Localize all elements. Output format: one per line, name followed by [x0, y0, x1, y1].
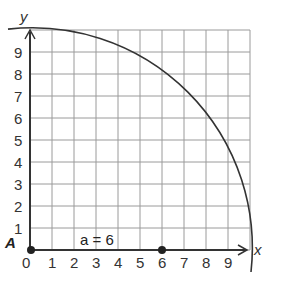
y-tick-label: 9: [14, 44, 22, 61]
annotation-a-equals-6: a = 6: [80, 231, 114, 248]
quarter-circle-curve: [8, 28, 252, 272]
x-tick-label: 6: [158, 254, 166, 271]
point-a-label: A: [4, 234, 16, 251]
x-tick-label: 8: [202, 254, 210, 271]
y-tick-label: 5: [14, 132, 22, 149]
y-tick-labels: 123456789: [14, 44, 22, 237]
y-axis-label: y: [19, 8, 29, 25]
x-tick-label: 2: [70, 254, 78, 271]
x-tick-label: 7: [180, 254, 188, 271]
point-a: [27, 246, 35, 254]
point-six: [158, 246, 166, 254]
grid: [30, 30, 250, 250]
x-tick-label: 3: [92, 254, 100, 271]
y-tick-label: 3: [14, 176, 22, 193]
y-tick-label: 8: [14, 66, 22, 83]
x-tick-label: 4: [114, 254, 122, 271]
x-axis-label: x: [253, 241, 262, 258]
x-tick-label: 1: [48, 254, 56, 271]
x-tick-labels: 0123456789: [22, 254, 232, 271]
x-tick-label: 0: [22, 254, 30, 271]
y-tick-label: 4: [14, 154, 22, 171]
y-tick-label: 6: [14, 110, 22, 127]
quarter-circle-diagram: y x 0123456789 123456789 A a = 6: [0, 0, 285, 284]
y-tick-label: 2: [14, 198, 22, 215]
x-tick-label: 9: [224, 254, 232, 271]
y-tick-label: 7: [14, 88, 22, 105]
x-tick-label: 5: [136, 254, 144, 271]
